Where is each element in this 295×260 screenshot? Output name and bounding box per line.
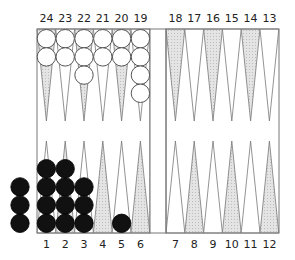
top-point-label: 16 (206, 12, 220, 25)
bottom-point-label: 9 (210, 238, 217, 251)
point-4[interactable] (93, 141, 112, 233)
white-checker[interactable] (112, 48, 130, 66)
black-checker[interactable] (37, 178, 55, 196)
black-checker[interactable] (75, 214, 93, 232)
top-point-label: 13 (262, 12, 276, 25)
white-checker[interactable] (131, 30, 149, 48)
bottom-point-label: 3 (81, 238, 88, 251)
white-checker[interactable] (56, 30, 74, 48)
point-8[interactable] (185, 141, 204, 233)
top-point-label: 22 (77, 12, 91, 25)
bar[interactable] (150, 29, 166, 233)
point-10[interactable] (222, 141, 241, 233)
white-checker[interactable] (94, 30, 112, 48)
black-checker[interactable] (37, 160, 55, 178)
black-checker[interactable] (56, 160, 74, 178)
white-checker[interactable] (75, 30, 93, 48)
black-checker[interactable] (75, 196, 93, 214)
white-checker[interactable] (131, 66, 149, 84)
bottom-point-label: 1 (43, 238, 50, 251)
point-13[interactable] (260, 29, 279, 121)
white-checker[interactable] (112, 30, 130, 48)
top-point-label: 23 (58, 12, 72, 25)
point-18[interactable] (166, 29, 185, 121)
top-point-label: 17 (187, 12, 201, 25)
point-7[interactable] (166, 141, 185, 233)
bottom-point-label: 5 (118, 238, 125, 251)
top-point-label: 15 (225, 12, 239, 25)
white-checker[interactable] (37, 30, 55, 48)
top-point-label: 19 (133, 12, 147, 25)
black-checker[interactable] (37, 214, 55, 232)
bottom-point-label: 12 (262, 238, 276, 251)
borne-off-black-checker (11, 178, 29, 196)
black-checker[interactable] (37, 196, 55, 214)
white-checker[interactable] (94, 48, 112, 66)
bottom-point-label: 4 (99, 238, 106, 251)
white-checker[interactable] (75, 66, 93, 84)
point-12[interactable] (260, 141, 279, 233)
top-point-label: 20 (115, 12, 129, 25)
white-checker[interactable] (37, 48, 55, 66)
black-checker[interactable] (56, 214, 74, 232)
bottom-point-label: 11 (244, 238, 258, 251)
top-point-label: 14 (244, 12, 258, 25)
checkers-layer (11, 30, 150, 233)
bottom-point-label: 8 (191, 238, 198, 251)
right-half-frame (166, 29, 279, 233)
top-point-label: 21 (96, 12, 110, 25)
point-16[interactable] (204, 29, 223, 121)
point-17[interactable] (185, 29, 204, 121)
bottom-point-label: 2 (62, 238, 69, 251)
top-point-label: 24 (39, 12, 53, 25)
black-checker[interactable] (56, 196, 74, 214)
bottom-point-label: 6 (137, 238, 144, 251)
white-checker[interactable] (75, 48, 93, 66)
white-checker[interactable] (56, 48, 74, 66)
black-checker[interactable] (112, 214, 130, 232)
white-checker[interactable] (131, 84, 149, 102)
white-checker[interactable] (131, 48, 149, 66)
bottom-point-label: 10 (225, 238, 239, 251)
black-checker[interactable] (56, 178, 74, 196)
backgammon-board: 241232223214205196187178169151014111312 (0, 0, 295, 260)
black-checker[interactable] (75, 178, 93, 196)
point-14[interactable] (241, 29, 260, 121)
point-9[interactable] (204, 141, 223, 233)
borne-off-black-checker (11, 214, 29, 232)
point-11[interactable] (241, 141, 260, 233)
point-6[interactable] (131, 141, 150, 233)
bottom-point-label: 7 (172, 238, 179, 251)
point-15[interactable] (222, 29, 241, 121)
borne-off-black-checker (11, 196, 29, 214)
top-point-label: 18 (168, 12, 182, 25)
